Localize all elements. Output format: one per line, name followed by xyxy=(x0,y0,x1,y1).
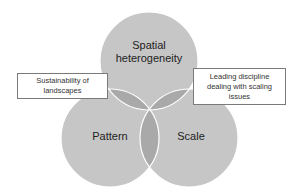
callout-leading-discipline-text: Leading discipline dealing with scaling … xyxy=(202,72,277,102)
label-pattern: Pattern xyxy=(80,130,140,143)
callout-sustainability-text: Sustainability of landscapes xyxy=(32,76,93,96)
callout-sustainability: Sustainability of landscapes xyxy=(17,73,108,99)
callout-leading-discipline: Leading discipline dealing with scaling … xyxy=(193,68,286,105)
label-spatial-heterogeneity: Spatial heterogeneity xyxy=(109,39,189,65)
label-line-1: Spatial xyxy=(109,39,189,52)
label-scale: Scale xyxy=(166,130,216,143)
label-line-2: heterogeneity xyxy=(109,52,189,65)
